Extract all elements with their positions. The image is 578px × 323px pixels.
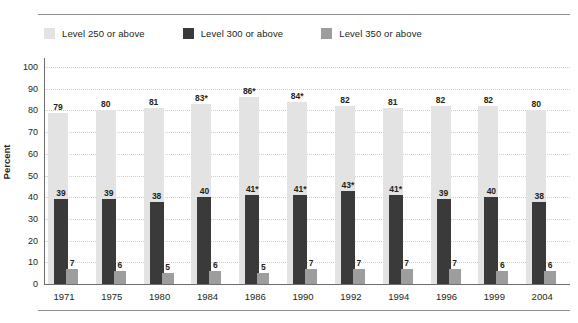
bar-value-label: 39 bbox=[56, 188, 65, 198]
legend-swatch-icon bbox=[44, 28, 55, 39]
bar bbox=[209, 271, 221, 284]
bar-value-label: 39 bbox=[439, 188, 448, 198]
bar-group: 8243*7 bbox=[335, 58, 383, 284]
y-axis-tick-label: 80 bbox=[0, 105, 38, 115]
legend-label: Level 350 or above bbox=[339, 28, 422, 39]
bar-value-label: 7 bbox=[70, 258, 75, 268]
bar-group: 79397 bbox=[48, 58, 96, 284]
x-axis-tick-label: 1994 bbox=[388, 291, 409, 302]
x-axis-tick-label: 1996 bbox=[436, 291, 457, 302]
bar-value-label: 6 bbox=[500, 260, 505, 270]
bar bbox=[257, 273, 269, 284]
y-axis-tick-label: 70 bbox=[0, 127, 38, 137]
bar bbox=[544, 271, 556, 284]
x-axis-tick-label: 1990 bbox=[293, 291, 314, 302]
bar-value-label: 6 bbox=[117, 260, 122, 270]
x-axis-tick-label: 1980 bbox=[149, 291, 170, 302]
bar-value-label: 38 bbox=[534, 191, 543, 201]
legend-swatch-icon bbox=[183, 28, 194, 39]
bar bbox=[114, 271, 126, 284]
top-divider bbox=[38, 14, 570, 15]
bar-value-label: 7 bbox=[452, 258, 457, 268]
y-axis-tick-label: 100 bbox=[0, 62, 38, 72]
plot-area: 1009080706050403020100 79397803968138583… bbox=[44, 58, 570, 285]
bar bbox=[449, 269, 461, 284]
bar-group: 82397 bbox=[431, 58, 479, 284]
bar bbox=[245, 195, 259, 284]
bar-value-label: 41* bbox=[294, 184, 307, 194]
y-axis-tick-label: 0 bbox=[0, 279, 38, 289]
bar-value-label: 82 bbox=[484, 95, 493, 105]
bar bbox=[162, 273, 174, 284]
x-axis-tick-label: 1984 bbox=[197, 291, 218, 302]
bar-group: 86*41*5 bbox=[239, 58, 287, 284]
bar bbox=[66, 269, 78, 284]
y-axis-line bbox=[44, 58, 45, 285]
x-axis-labels: 1971197519801984198619901992199419961999… bbox=[44, 291, 570, 305]
bar bbox=[401, 269, 413, 284]
bar-value-label: 5 bbox=[165, 262, 170, 272]
bar-value-label: 5 bbox=[261, 262, 266, 272]
bar-value-label: 79 bbox=[53, 102, 62, 112]
legend-swatch-icon bbox=[321, 28, 332, 39]
bar-value-label: 80 bbox=[531, 99, 540, 109]
chart-legend: Level 250 or aboveLevel 300 or aboveLeve… bbox=[44, 28, 460, 39]
bar-value-label: 84* bbox=[291, 91, 304, 101]
bar bbox=[305, 269, 317, 284]
y-axis-tick-label: 10 bbox=[0, 257, 38, 267]
bar-group: 81385 bbox=[144, 58, 192, 284]
bar bbox=[150, 202, 164, 284]
bar-value-label: 40 bbox=[200, 186, 209, 196]
x-axis-tick-label: 1986 bbox=[245, 291, 266, 302]
legend-item: Level 250 or above bbox=[44, 28, 145, 39]
bar-value-label: 80 bbox=[101, 99, 110, 109]
legend-item: Level 300 or above bbox=[183, 28, 284, 39]
bar-value-label: 7 bbox=[309, 258, 314, 268]
x-axis-tick-label: 1971 bbox=[53, 291, 74, 302]
bar-value-label: 83* bbox=[195, 93, 208, 103]
legend-label: Level 300 or above bbox=[201, 28, 284, 39]
bar-value-label: 7 bbox=[404, 258, 409, 268]
x-axis-tick-label: 1992 bbox=[340, 291, 361, 302]
bar-value-label: 6 bbox=[548, 260, 553, 270]
bar-value-label: 43* bbox=[342, 180, 355, 190]
legend-item: Level 350 or above bbox=[321, 28, 422, 39]
bar bbox=[353, 269, 365, 284]
bar-value-label: 7 bbox=[357, 258, 362, 268]
y-axis-tick-label: 30 bbox=[0, 214, 38, 224]
x-axis-tick-label: 1975 bbox=[101, 291, 122, 302]
bar-value-label: 38 bbox=[152, 191, 161, 201]
x-axis-tick-label: 1999 bbox=[484, 291, 505, 302]
bar-value-label: 81 bbox=[149, 97, 158, 107]
bar-value-label: 86* bbox=[243, 86, 256, 96]
bar-value-label: 39 bbox=[104, 188, 113, 198]
bar-group: 83*406 bbox=[191, 58, 239, 284]
y-axis-tick-label: 20 bbox=[0, 236, 38, 246]
y-axis-tick-label: 40 bbox=[0, 192, 38, 202]
bar-value-label: 82 bbox=[436, 95, 445, 105]
bar-group: 8141*7 bbox=[383, 58, 431, 284]
bar-group: 84*41*7 bbox=[287, 58, 335, 284]
legend-label: Level 250 or above bbox=[62, 28, 145, 39]
bar-value-label: 41* bbox=[246, 184, 259, 194]
bar-value-label: 41* bbox=[389, 184, 402, 194]
bar-value-label: 82 bbox=[340, 95, 349, 105]
bar-value-label: 81 bbox=[388, 97, 397, 107]
bar-group: 82406 bbox=[478, 58, 526, 284]
y-axis-tick-label: 90 bbox=[0, 84, 38, 94]
bar bbox=[496, 271, 508, 284]
x-axis-line bbox=[44, 284, 570, 285]
bar-value-label: 40 bbox=[487, 186, 496, 196]
bar-group: 80396 bbox=[96, 58, 144, 284]
x-axis-tick-label: 2004 bbox=[532, 291, 553, 302]
bar-value-label: 6 bbox=[213, 260, 218, 270]
bar-group: 80386 bbox=[526, 58, 574, 284]
bottom-divider bbox=[38, 310, 570, 311]
y-axis-title: Percent bbox=[1, 144, 12, 179]
